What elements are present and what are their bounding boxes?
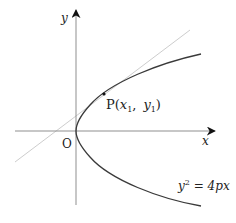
parabola-diagram: y x O P(x1,y1) y2 = 4px — [0, 0, 236, 223]
equation-label: y2 = 4px — [177, 178, 230, 193]
x-axis-label: x — [202, 134, 209, 148]
y-axis-label: y — [60, 11, 68, 25]
tangent-line — [15, 30, 190, 162]
point-p-label: P(x1,y1) — [106, 97, 161, 114]
point-p-marker — [102, 92, 105, 95]
origin-label: O — [62, 137, 72, 151]
